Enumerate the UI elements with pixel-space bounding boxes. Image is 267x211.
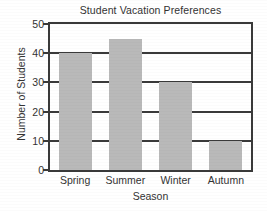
chart-title: Student Vacation Preferences [48,4,253,16]
x-axis-label: Season [48,190,253,202]
bar [109,39,142,170]
bar [159,82,192,170]
x-tick-label: Spring [50,174,100,186]
bar [209,141,242,170]
x-tick-label: Winter [151,174,201,186]
y-tick-label: 0 [22,164,44,176]
bar [59,53,92,170]
y-tick-label: 50 [22,18,44,30]
x-tick-label: Summer [100,174,150,186]
y-tick-label: 40 [22,47,44,59]
bar-chart-figure: Student Vacation Preferences Number of S… [0,0,267,211]
plot-area [48,22,253,172]
y-tick-label: 20 [22,106,44,118]
y-tick-label: 30 [22,76,44,88]
y-tick-label: 10 [22,135,44,147]
x-tick-label: Autumn [201,174,251,186]
